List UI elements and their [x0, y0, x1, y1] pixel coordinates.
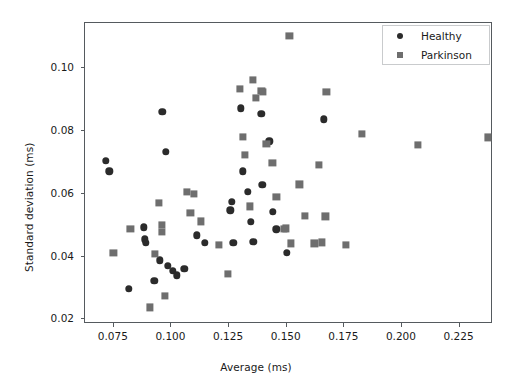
data-point-healthy [244, 188, 251, 195]
data-point-parkinson [484, 134, 491, 141]
data-point-healthy [269, 208, 276, 215]
data-point-parkinson [127, 226, 134, 233]
data-point-healthy [239, 168, 246, 175]
legend-label-parkinson: Parkinson [421, 49, 472, 61]
data-point-parkinson [241, 151, 248, 158]
data-point-parkinson [239, 133, 246, 140]
data-point-parkinson [237, 85, 244, 92]
data-point-parkinson [323, 88, 330, 95]
data-point-healthy [320, 116, 327, 123]
plot-area [84, 22, 492, 323]
data-point-parkinson [250, 76, 257, 83]
y-tick-label: 0.02 [42, 312, 74, 324]
data-point-parkinson [253, 95, 260, 102]
legend-label-healthy: Healthy [421, 30, 462, 42]
data-point-healthy [193, 232, 200, 239]
legend: Healthy Parkinson [382, 25, 490, 65]
x-tick-mark [459, 323, 460, 327]
data-point-parkinson [161, 292, 168, 299]
x-tick-mark [343, 323, 344, 327]
data-point-parkinson [260, 88, 267, 95]
data-point-parkinson [302, 212, 309, 219]
data-point-healthy [201, 239, 208, 246]
data-point-healthy [247, 218, 254, 225]
legend-square-marker-icon [387, 52, 413, 58]
data-point-healthy [237, 105, 244, 112]
data-point-parkinson [187, 209, 194, 216]
legend-circle-marker-icon [387, 33, 413, 40]
data-point-parkinson [190, 190, 197, 197]
data-point-parkinson [215, 241, 222, 248]
data-point-parkinson [273, 193, 280, 200]
x-tick-label: 0.200 [386, 330, 416, 342]
x-tick-mark [401, 323, 402, 327]
y-tick-label: 0.08 [42, 124, 74, 136]
data-point-parkinson [414, 141, 421, 148]
data-point-healthy [258, 110, 265, 117]
x-tick-mark [286, 323, 287, 327]
x-tick-mark [228, 323, 229, 327]
legend-item-parkinson: Parkinson [383, 45, 491, 65]
data-point-parkinson [159, 229, 166, 236]
data-point-parkinson [311, 240, 318, 247]
data-point-healthy [150, 277, 157, 284]
data-point-healthy [156, 257, 163, 264]
data-point-healthy [173, 272, 180, 279]
data-point-parkinson [322, 213, 329, 220]
data-point-healthy [283, 249, 290, 256]
data-point-healthy [102, 157, 109, 164]
x-tick-label: 0.175 [328, 330, 358, 342]
legend-item-healthy: Healthy [383, 26, 491, 46]
data-point-healthy [142, 239, 149, 246]
data-point-healthy [159, 108, 166, 115]
data-point-parkinson [155, 199, 162, 206]
data-point-healthy [273, 226, 280, 233]
data-point-parkinson [318, 239, 325, 246]
data-point-parkinson [269, 160, 276, 167]
data-point-healthy [106, 168, 113, 175]
data-point-healthy [162, 148, 169, 155]
data-point-healthy [250, 238, 257, 245]
data-point-parkinson [286, 32, 293, 39]
x-axis-label: Average (ms) [0, 361, 512, 373]
x-tick-label: 0.225 [444, 330, 474, 342]
data-point-healthy [140, 224, 147, 231]
x-tick-label: 0.075 [98, 330, 128, 342]
data-point-parkinson [224, 270, 231, 277]
data-point-parkinson [288, 240, 295, 247]
data-point-healthy [125, 285, 132, 292]
y-tick-label: 0.04 [42, 250, 74, 262]
y-tick-label: 0.10 [42, 61, 74, 73]
data-point-parkinson [247, 203, 254, 210]
data-point-healthy [227, 206, 234, 213]
x-tick-label: 0.150 [271, 330, 301, 342]
x-tick-mark [113, 323, 114, 327]
data-point-healthy [180, 265, 187, 272]
data-point-parkinson [315, 161, 322, 168]
y-tick-label: 0.06 [42, 187, 74, 199]
x-tick-mark [170, 323, 171, 327]
data-point-parkinson [197, 218, 204, 225]
scatter-plot-figure: Standard deviation (ms) Average (ms) 0.0… [0, 0, 512, 388]
data-point-parkinson [151, 250, 158, 257]
data-point-parkinson [146, 304, 153, 311]
x-tick-label: 0.100 [155, 330, 185, 342]
data-point-healthy [228, 198, 235, 205]
data-point-healthy [230, 239, 237, 246]
data-point-parkinson [282, 225, 289, 232]
data-point-parkinson [359, 131, 366, 138]
data-point-healthy [259, 181, 266, 188]
data-point-parkinson [263, 140, 270, 147]
data-point-parkinson [296, 181, 303, 188]
data-point-parkinson [343, 241, 350, 248]
x-tick-label: 0.125 [213, 330, 243, 342]
data-point-parkinson [110, 249, 117, 256]
y-axis-label: Standard deviation (ms) [23, 143, 35, 272]
